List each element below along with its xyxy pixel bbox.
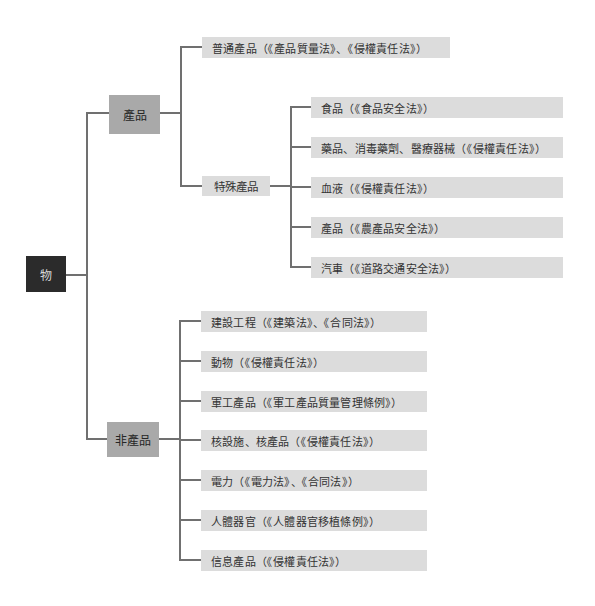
node-human-organ: 人體器官（《人體器官移植條例》） — [201, 510, 427, 531]
node-agricultural-product: 產品（《農產品安全法》） — [311, 217, 563, 238]
connector-special-out — [270, 185, 291, 187]
node-medicine: 藥品、消毒藥劑、醫療器械（《侵權責任法》） — [311, 137, 563, 158]
connector-root — [66, 274, 88, 276]
connector-non-child-7 — [179, 559, 201, 561]
connector-non-product-out — [159, 438, 181, 440]
connector-special-product — [180, 185, 202, 187]
classification-tree-diagram: 物 產品 非產品 普通產品（《產品質量法》、《侵權責任法》） 特殊產品 食品（《… — [0, 0, 595, 606]
connector-special-child-4 — [290, 226, 311, 228]
node-non-product: 非產品 — [107, 422, 159, 457]
node-military-product: 軍工產品（《軍工產品質量管理條例》） — [201, 391, 427, 412]
connector-special-child-1 — [290, 106, 311, 108]
connector-general-product — [180, 46, 202, 48]
node-construction: 建設工程（《建築法》、《合同法》） — [201, 311, 427, 332]
connector-product-vertical — [180, 46, 182, 187]
connector-product-out — [160, 112, 181, 114]
node-animal: 動物（《侵權責任法》） — [201, 351, 427, 372]
connector-non-child-2 — [179, 360, 201, 362]
connector-special-child-5 — [290, 266, 311, 268]
node-product: 產品 — [109, 95, 160, 134]
node-special-product: 特殊產品 — [202, 176, 270, 196]
node-information-product: 信息產品（《侵權責任法》） — [201, 550, 427, 571]
connector-non-child-4 — [179, 439, 201, 441]
node-general-product: 普通產品（《產品質量法》、《侵權責任法》） — [202, 37, 450, 58]
connector-non-child-1 — [179, 320, 201, 322]
connector-special-child-3 — [290, 186, 311, 188]
connector-non-child-5 — [179, 479, 201, 481]
connector-non-child-6 — [179, 519, 201, 521]
node-electricity: 電力（《電力法》、《合同法》） — [201, 470, 427, 491]
node-automobile: 汽車（《道路交通安全法》） — [311, 257, 563, 278]
node-blood: 血液（《侵權責任法》） — [311, 177, 563, 198]
connector-main-vertical — [86, 112, 88, 440]
connector-product — [86, 112, 109, 114]
connector-non-product — [86, 438, 107, 440]
connector-non-child-3 — [179, 400, 201, 402]
root-node: 物 — [26, 256, 66, 292]
node-food: 食品（《食品安全法》） — [311, 97, 563, 118]
node-nuclear: 核設施、核產品（《侵權責任法》） — [201, 430, 427, 451]
connector-special-child-2 — [290, 146, 311, 148]
